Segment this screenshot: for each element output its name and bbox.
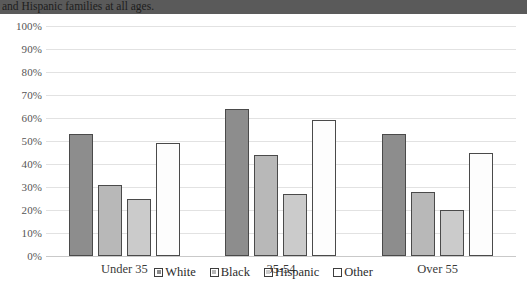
y-axis-tick-label: 40% bbox=[22, 158, 42, 170]
bar bbox=[254, 155, 278, 256]
legend-item[interactable]: White bbox=[154, 265, 196, 280]
bar bbox=[382, 134, 406, 256]
legend-swatch-icon bbox=[154, 268, 163, 277]
axis-baseline bbox=[46, 256, 516, 257]
y-axis-tick-label: 30% bbox=[22, 181, 42, 193]
y-axis-tick-label: 70% bbox=[22, 89, 42, 101]
legend-label: Hispanic bbox=[275, 265, 319, 280]
y-axis-tick-label: 20% bbox=[22, 204, 42, 216]
legend-label: Other bbox=[344, 265, 372, 280]
bar bbox=[225, 109, 249, 256]
bar-group bbox=[46, 26, 203, 256]
bar bbox=[156, 143, 180, 256]
legend-swatch-icon bbox=[333, 268, 342, 277]
legend-label: Black bbox=[221, 265, 250, 280]
legend-item[interactable]: Black bbox=[210, 265, 250, 280]
caption-band: and Hispanic families at all ages. bbox=[0, 0, 527, 14]
legend-item[interactable]: Hispanic bbox=[264, 265, 319, 280]
bar bbox=[98, 185, 122, 256]
y-axis: 100%90%80%70%60%50%40%30%20%10%0% bbox=[0, 16, 46, 252]
chart-page: and Hispanic families at all ages. 100%9… bbox=[0, 0, 527, 299]
chart-legend: WhiteBlackHispanicOther bbox=[0, 262, 527, 282]
bar-group bbox=[359, 26, 516, 256]
y-axis-tick-label: 100% bbox=[16, 20, 42, 32]
bar-group bbox=[203, 26, 360, 256]
bar bbox=[440, 210, 464, 256]
legend-swatch-icon bbox=[264, 268, 273, 277]
bar bbox=[312, 120, 336, 256]
bar bbox=[127, 199, 151, 257]
y-axis-tick-label: 50% bbox=[22, 135, 42, 147]
legend-item[interactable]: Other bbox=[333, 265, 372, 280]
bar bbox=[69, 134, 93, 256]
y-axis-tick-label: 0% bbox=[27, 250, 42, 262]
y-axis-tick-label: 90% bbox=[22, 43, 42, 55]
bar bbox=[283, 194, 307, 256]
y-axis-tick-label: 10% bbox=[22, 227, 42, 239]
legend-swatch-icon bbox=[210, 268, 219, 277]
y-axis-tick-label: 80% bbox=[22, 66, 42, 78]
bar bbox=[411, 192, 435, 256]
bar-series-container bbox=[46, 26, 516, 256]
bar bbox=[469, 153, 493, 257]
y-axis-tick-label: 60% bbox=[22, 112, 42, 124]
legend-label: White bbox=[165, 265, 196, 280]
plot-area: 100%90%80%70%60%50%40%30%20%10%0% Under … bbox=[0, 16, 527, 299]
caption-text: and Hispanic families at all ages. bbox=[2, 0, 154, 13]
